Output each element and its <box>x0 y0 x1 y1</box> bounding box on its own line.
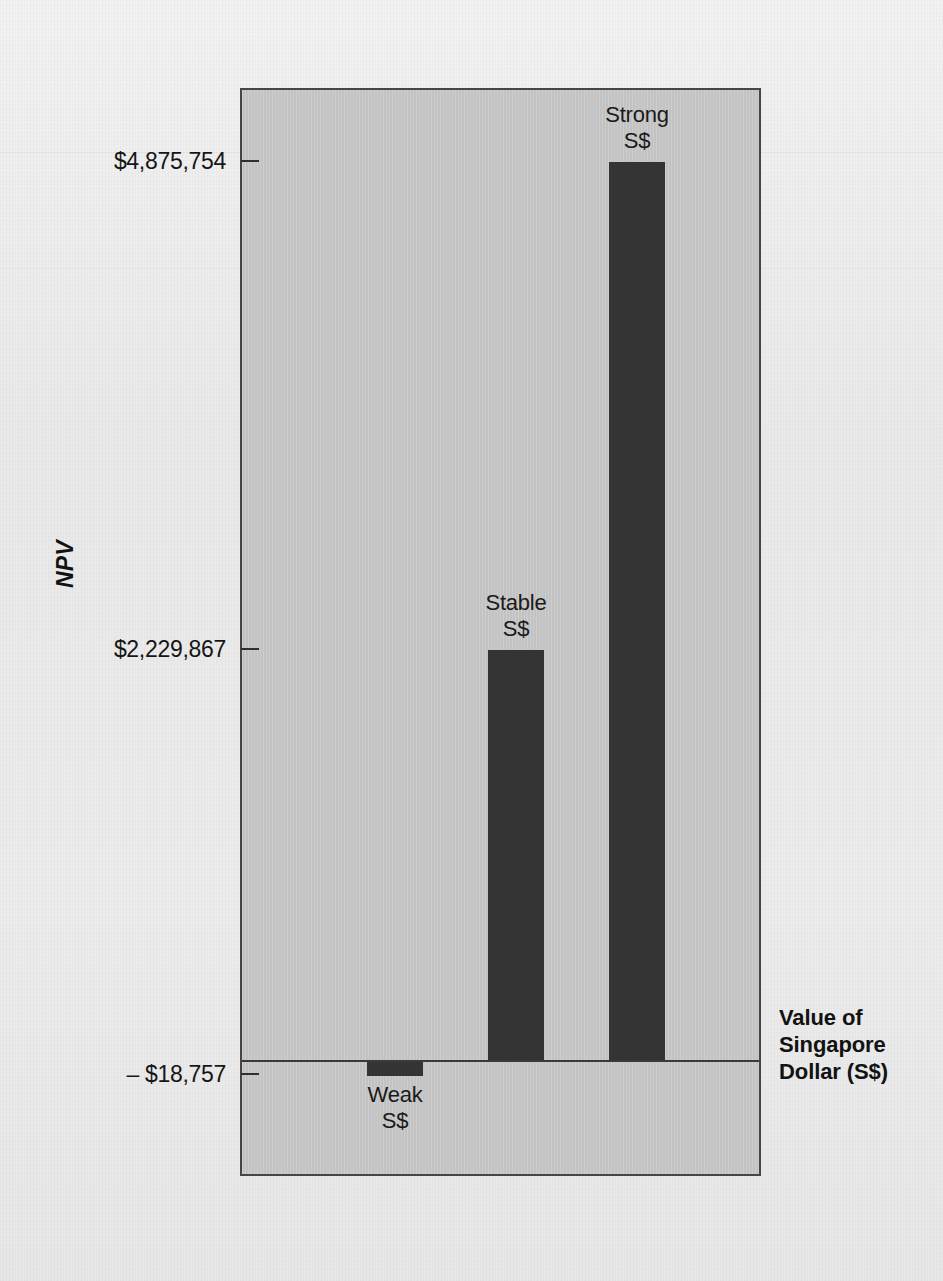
y-axis-tick-label-middle: $2,229,867 <box>0 638 226 661</box>
y-axis-tick-mark-top <box>241 160 259 162</box>
plot-area: Weak S$ Stable S$ Strong S$ <box>240 88 761 1176</box>
y-axis-tick-mark-middle <box>241 648 259 650</box>
zero-baseline <box>242 1060 759 1062</box>
y-axis-tick-label-bottom: – $18,757 <box>0 1063 226 1086</box>
bar-weak[interactable] <box>367 1062 423 1076</box>
y-axis-tick-label-top: $4,875,754 <box>0 150 226 173</box>
bar-stable[interactable] <box>488 650 544 1060</box>
bar-chart-figure: $4,875,754 $2,229,867 – $18,757 NPV Valu… <box>0 0 943 1281</box>
bar-label-strong: Strong S$ <box>587 102 687 154</box>
y-axis-title: NPV <box>52 540 79 588</box>
y-axis-tick-mark-bottom <box>241 1073 259 1075</box>
bar-label-weak: Weak S$ <box>345 1082 445 1134</box>
bar-strong[interactable] <box>609 162 665 1060</box>
x-axis-title: Value of Singapore Dollar (S$) <box>779 1004 888 1085</box>
bar-label-stable: Stable S$ <box>466 590 566 642</box>
